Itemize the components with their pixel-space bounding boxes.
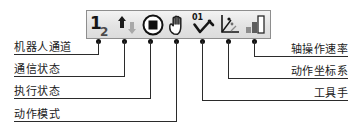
tool-hand-icon[interactable]: 01 [191,11,217,38]
communication-status-icon[interactable] [114,11,140,38]
leader-exec-status-v [150,41,151,99]
callout-label-action-mode: 动作模式 [14,108,60,121]
status-toolbar: 1 2 01 [86,10,271,39]
leader-axis-speed-h [254,56,348,57]
diagram-root: 1 2 01 [0,0,362,139]
leader-comm-status-v [124,41,125,77]
callout-label-tool-hand: 工具手 [238,87,348,100]
leader-coord-system-v [228,41,229,79]
leader-action-mode-v [176,41,177,122]
svg-text:2: 2 [100,25,108,38]
callout-label-robot-channel: 机器人通道 [14,41,72,54]
leader-exec-status-h [14,98,151,99]
hand-icon[interactable] [165,11,191,38]
svg-text:01: 01 [192,13,204,22]
leader-coord-system-h [228,78,348,79]
callout-label-axis-speed: 轴操作速率 [238,43,348,56]
leader-tool-hand-v [202,41,203,101]
leader-comm-status-h [14,76,125,77]
execution-status-icon[interactable] [140,11,166,38]
leader-action-mode-h [14,121,177,122]
callout-label-coord-system: 动作坐标系 [238,65,348,78]
leader-tool-hand-h [202,100,348,101]
robot-channel-icon[interactable]: 1 2 [88,11,114,38]
callout-label-exec-status: 执行状态 [14,85,60,98]
leader-robot-channel-h [14,54,99,55]
leader-robot-channel-v [98,41,99,55]
coordinate-system-icon[interactable] [217,11,243,38]
speed-bars-icon[interactable] [243,11,269,38]
callout-label-comm-status: 通信状态 [14,63,60,76]
